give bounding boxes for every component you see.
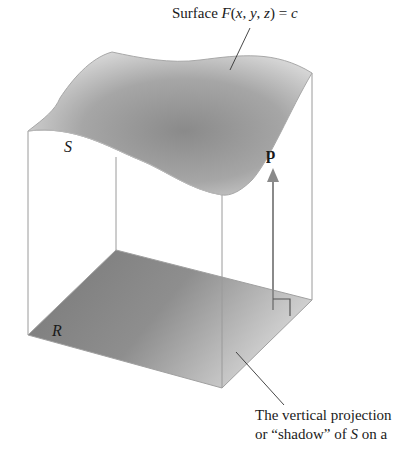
constant-c: c: [291, 5, 298, 21]
caption-S: S: [350, 426, 358, 442]
region-R-label: R: [52, 322, 62, 340]
vector-p-arrowhead-icon: [267, 168, 279, 182]
caption-line-1: The vertical projection: [255, 406, 392, 425]
region-R-shadow: [28, 250, 312, 388]
caption-line-2-suffix: on a: [358, 426, 387, 442]
caption-leader: [236, 352, 284, 405]
surface-S-label: S: [64, 138, 72, 156]
var-y: y: [250, 5, 257, 21]
surface-word: Surface: [172, 5, 222, 21]
close-paren-equals: ) =: [270, 5, 291, 21]
vector-p-label: p: [266, 145, 275, 163]
caption-line-2-prefix: or “shadow” of: [255, 426, 350, 442]
surface-equation-label: Surface F(x, y, z) = c: [172, 4, 298, 22]
projection-caption: The vertical projection or “shadow” of S…: [255, 406, 392, 444]
function-F: F: [222, 5, 231, 21]
comma-1: ,: [242, 5, 250, 21]
caption-line-2: or “shadow” of S on a: [255, 425, 392, 444]
surface-S: [28, 52, 312, 195]
comma-2: ,: [257, 5, 265, 21]
diagram-canvas: [0, 0, 399, 455]
surface-projection-figure: Surface F(x, y, z) = c S R p The vertica…: [0, 0, 399, 455]
